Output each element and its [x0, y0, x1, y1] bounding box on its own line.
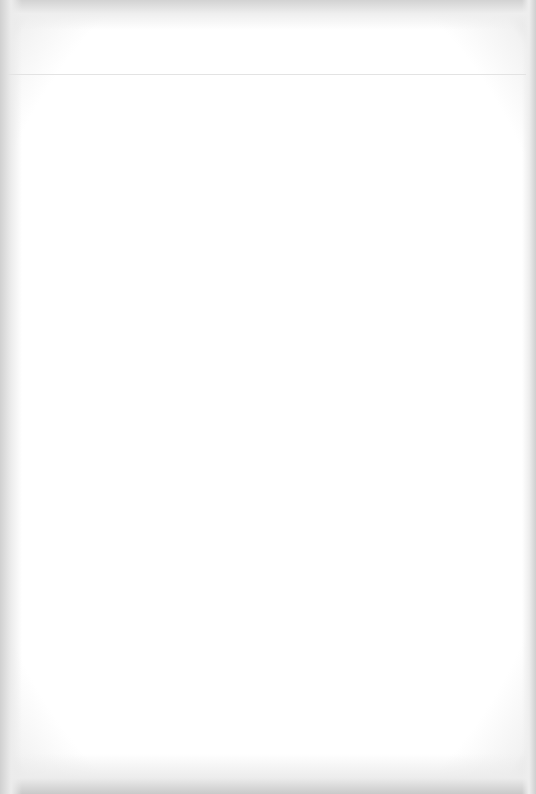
scanned-page — [0, 0, 536, 794]
header-divider — [8, 74, 526, 75]
page-edge-right — [522, 0, 536, 794]
page-edge-top — [0, 0, 536, 30]
page-edge-left — [0, 0, 22, 794]
page-edge-bottom — [0, 754, 536, 794]
blank-page-body — [22, 76, 522, 754]
